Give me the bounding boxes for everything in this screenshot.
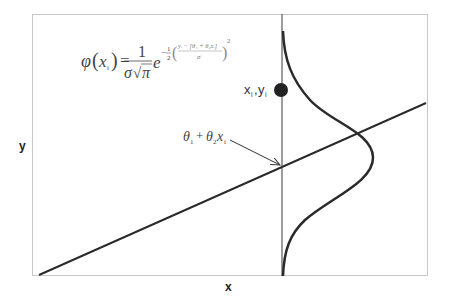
formula-exp-inner-num: yᵢ − [θ₁ + θ₂xᵢ] xyxy=(177,42,218,50)
theta1-sub: 1 xyxy=(190,138,194,146)
formula-sigma: σ xyxy=(124,64,133,81)
y-axis-label: y xyxy=(19,139,26,153)
x-var-sub: i xyxy=(224,138,226,146)
point-label: x i , y i xyxy=(244,82,267,98)
formula-exp-power: 2 xyxy=(227,37,231,45)
theta1: θ xyxy=(183,129,190,144)
formula-numerator: 1 xyxy=(138,43,146,60)
formula-pi: π xyxy=(142,64,151,81)
formula-exp-paren-open: ( xyxy=(172,44,177,62)
formula-x: x xyxy=(98,52,107,71)
formula-exp-paren-close: ) xyxy=(222,44,227,62)
formula-paren-close: ) xyxy=(111,49,118,72)
formula-phi: φ xyxy=(81,51,91,71)
formula-exp-minus: − xyxy=(161,47,166,57)
formula-exp-half-den: 2 xyxy=(167,54,171,62)
formula-paren-open: ( xyxy=(92,49,99,72)
x-axis-label: x xyxy=(225,280,232,294)
formula-e: e xyxy=(153,53,161,72)
formula-exp-inner-den: σ xyxy=(197,53,201,61)
point-label-y: y xyxy=(258,82,265,97)
regression-diagram: y x x i , y i θ 1 + θ 2 x i φ ( x i ) = … xyxy=(0,0,449,304)
x-var: x xyxy=(216,129,224,144)
data-point xyxy=(274,83,288,97)
theta2: θ xyxy=(206,129,213,144)
formula-x-sub: i xyxy=(107,64,109,72)
point-label-x: x xyxy=(244,82,251,97)
formula-exp-half-num: 1 xyxy=(167,45,171,53)
formula-sqrt: √ xyxy=(133,65,142,81)
plus-sign: + xyxy=(196,128,203,143)
